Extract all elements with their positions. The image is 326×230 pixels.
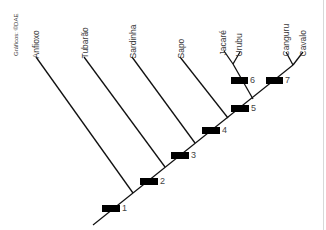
main-axis: [93, 65, 293, 225]
marker-label-5: 5: [251, 104, 256, 113]
branch-anfioxo: [36, 57, 133, 193]
taxon-sardinha: Sardinha: [129, 24, 138, 58]
branch-tubarao: [84, 57, 165, 167]
marker-label-1: 1: [122, 204, 127, 213]
cladogram: Gráficos: ©DAE Anfioxo Tubarão Sardinha …: [0, 0, 326, 230]
taxon-canguru: Canguru: [282, 24, 291, 57]
credit-label: Gráficos: ©DAE: [13, 14, 19, 56]
marker-6: [231, 77, 248, 84]
taxon-sapo: Sapo: [177, 39, 186, 59]
taxon-cavalo: Cavalo: [299, 30, 308, 56]
marker-3: [171, 152, 189, 159]
marker-4: [202, 127, 220, 134]
marker-label-6: 6: [250, 76, 255, 85]
marker-1: [102, 205, 120, 212]
branch-sardinha: [132, 57, 195, 143]
page-edge-divider: [323, 0, 324, 230]
marker-label-7: 7: [285, 76, 290, 85]
taxon-tubarao: Tubarão: [81, 27, 90, 58]
cladogram-lines: [0, 0, 326, 230]
marker-label-4: 4: [222, 126, 227, 135]
taxon-anfioxo: Anfioxo: [32, 30, 41, 58]
branch-sapo: [180, 57, 228, 118]
marker-2: [140, 178, 158, 185]
taxon-urubu: Urubu: [235, 33, 244, 56]
marker-5: [231, 105, 249, 112]
taxon-jacare: Jacaré: [219, 30, 228, 56]
marker-label-3: 3: [191, 151, 196, 160]
marker-label-2: 2: [160, 177, 165, 186]
marker-7: [266, 77, 283, 84]
